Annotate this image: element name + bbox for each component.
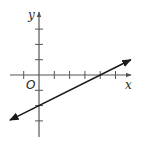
coordinate-plane: x y O (0, 0, 141, 143)
origin-label: O (26, 78, 35, 92)
y-axis-label: y (27, 8, 35, 22)
x-axis-label: x (125, 78, 132, 92)
